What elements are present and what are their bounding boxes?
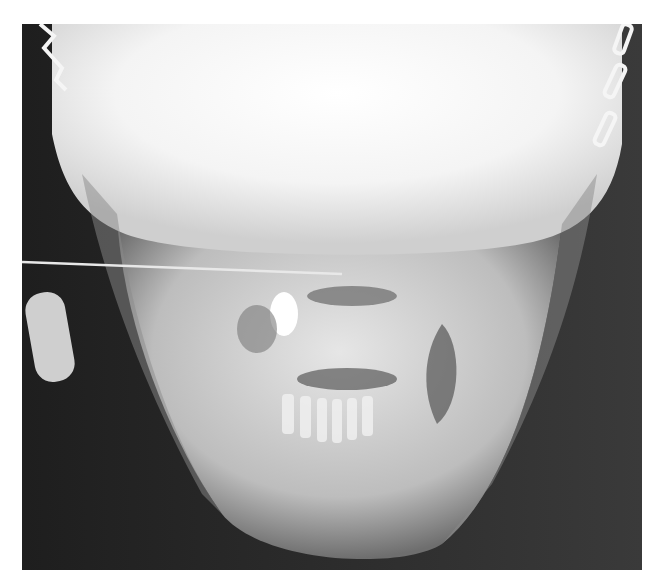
skull <box>52 24 622 255</box>
sinus-left <box>237 305 277 353</box>
oral-cavity-upper <box>307 286 397 306</box>
oral-cavity-lower <box>297 368 397 390</box>
xray-image <box>22 24 642 570</box>
xray-drawing <box>22 24 642 570</box>
